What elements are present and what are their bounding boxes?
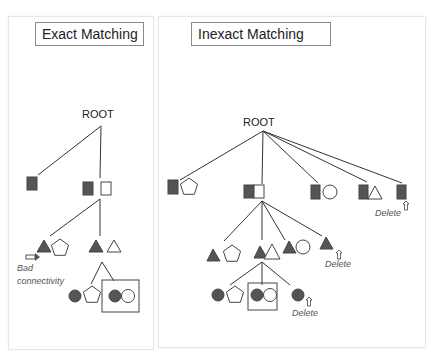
exact-root-label: ROOT bbox=[82, 108, 114, 120]
right-arrow-icon bbox=[26, 253, 40, 261]
hollow-circle-node bbox=[264, 289, 277, 302]
pentagon-node bbox=[180, 178, 197, 194]
filled-circle-node bbox=[109, 290, 121, 302]
up-arrow-icon bbox=[403, 201, 409, 210]
delete-label: Delete bbox=[375, 208, 401, 218]
hollow-square-node bbox=[101, 182, 111, 195]
filled-square-node bbox=[397, 185, 406, 199]
filled-triangle-node bbox=[89, 240, 103, 252]
inexact-tree-edges bbox=[180, 131, 402, 285]
filled-circle-node bbox=[69, 290, 81, 302]
filled-triangle-node bbox=[37, 240, 51, 252]
hollow-triangle-node bbox=[107, 240, 121, 252]
bad-connectivity-label-2: connectivity bbox=[17, 276, 65, 286]
filled-circle-node bbox=[251, 289, 263, 301]
exact-tree-edges bbox=[38, 126, 114, 284]
delete-label: Delete bbox=[292, 308, 318, 318]
filled-square-node bbox=[27, 177, 37, 190]
filled-triangle-node bbox=[207, 249, 220, 261]
delete-label: Delete bbox=[325, 259, 351, 269]
pentagon-node bbox=[83, 286, 100, 302]
filled-square-node bbox=[311, 185, 320, 199]
pentagon-node bbox=[51, 239, 68, 255]
filled-square-node bbox=[244, 185, 254, 198]
filled-square-node bbox=[359, 185, 368, 199]
filled-triangle-node bbox=[283, 241, 296, 253]
hollow-circle-node bbox=[122, 290, 135, 303]
hollow-circle-node bbox=[296, 240, 310, 254]
hollow-square-node bbox=[254, 185, 264, 198]
hollow-circle-node bbox=[323, 185, 337, 199]
pentagon-node bbox=[223, 245, 240, 261]
up-arrow-icon bbox=[306, 297, 312, 306]
filled-square-node bbox=[168, 180, 178, 194]
hollow-triangle-node bbox=[368, 186, 382, 199]
filled-circle-node bbox=[212, 289, 224, 301]
bad-connectivity-label-1: Bad bbox=[17, 263, 34, 273]
pentagon-node bbox=[226, 286, 243, 302]
inexact-root-label: ROOT bbox=[243, 116, 275, 128]
filled-square-node bbox=[83, 182, 93, 195]
hollow-triangle-node bbox=[264, 244, 280, 259]
matching-diagram: ROOT Bad connectivity ROOT bbox=[0, 0, 431, 354]
filled-circle-node bbox=[292, 289, 304, 301]
up-arrow-icon bbox=[336, 250, 342, 259]
filled-triangle-node bbox=[320, 237, 333, 249]
